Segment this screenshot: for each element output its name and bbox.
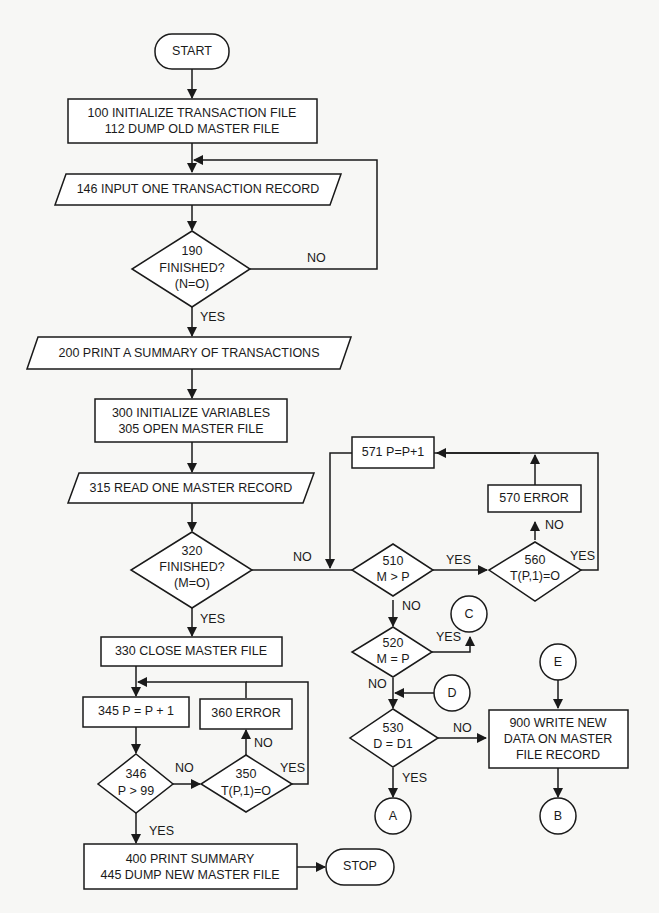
decision-320-line-3: (M=O) <box>174 576 210 590</box>
process-900-line-1: 900 WRITE NEW <box>509 716 606 730</box>
process-300-line-1: 300 INITIALIZE VARIABLES <box>112 406 270 420</box>
connector-c-label: C <box>464 607 473 621</box>
decision-530-line-1: 530 <box>383 721 404 735</box>
process-300-line-2: 305 OPEN MASTER FILE <box>118 422 263 436</box>
process-900-write-master: 900 WRITE NEW DATA ON MASTER FILE RECORD <box>489 710 628 768</box>
decision-520-m-eq-p: 520 M = P <box>352 627 432 677</box>
io-315-label: 315 READ ONE MASTER RECORD <box>90 481 293 495</box>
process-571-increment: 571 P=P+1 <box>352 437 434 468</box>
decision-190-finished: 190 FINISHED? (N=O) <box>132 231 250 307</box>
connector-e-label: E <box>554 655 562 669</box>
process-300-initialize-variables: 300 INITIALIZE VARIABLES 305 OPEN MASTER… <box>95 399 287 442</box>
label-320-no: NO <box>293 550 312 564</box>
decision-320-line-2: FINISHED? <box>159 560 224 574</box>
flowchart-canvas: START 100 INITIALIZE TRANSACTION FILE 11… <box>0 0 659 913</box>
connector-c: C <box>451 596 487 632</box>
connector-b: B <box>540 798 576 834</box>
connector-e: E <box>540 644 576 680</box>
connector-a-label: A <box>389 809 398 823</box>
io-200-label: 200 PRINT A SUMMARY OF TRANSACTIONS <box>59 346 320 360</box>
process-400-line-2: 445 DUMP NEW MASTER FILE <box>101 868 280 882</box>
decision-520-line-2: M = P <box>377 652 410 666</box>
io-200-print-summary: 200 PRINT A SUMMARY OF TRANSACTIONS <box>27 337 351 369</box>
process-100-initialize: 100 INITIALIZE TRANSACTION FILE 112 DUMP… <box>68 99 317 143</box>
label-510-yes: YES <box>446 553 471 567</box>
process-330-close-master: 330 CLOSE MASTER FILE <box>101 637 282 666</box>
start-terminator: START <box>155 34 229 69</box>
process-570-error: 570 ERROR <box>488 485 581 512</box>
label-520-no: NO <box>368 677 387 691</box>
process-360-error: 360 ERROR <box>200 699 292 729</box>
decision-510-line-2: M > P <box>377 570 410 584</box>
io-315-read-master: 315 READ ONE MASTER RECORD <box>68 473 314 503</box>
label-510-no: NO <box>402 599 421 613</box>
label-320-yes: YES <box>200 612 225 626</box>
decision-190-line-3: (N=O) <box>175 277 209 291</box>
process-570-label: 570 ERROR <box>499 491 568 505</box>
stop-terminator: STOP <box>326 849 394 885</box>
process-100-line-2: 112 DUMP OLD MASTER FILE <box>105 122 280 136</box>
label-350-yes: YES <box>280 761 305 775</box>
decision-190-line-2: FINISHED? <box>159 261 224 275</box>
connector-d-label: D <box>447 686 456 700</box>
decision-530-line-2: D = D1 <box>373 737 412 751</box>
decision-530-d-eq-d1: 530 D = D1 <box>350 709 438 767</box>
decision-320-line-1: 320 <box>182 544 203 558</box>
label-346-no: NO <box>175 761 194 775</box>
decision-560-test: 560 T(P,1)=O <box>489 542 581 601</box>
decision-346-p-gt-99: 346 P > 99 <box>98 754 173 813</box>
decision-346-line-1: 346 <box>126 767 147 781</box>
process-360-label: 360 ERROR <box>211 706 280 720</box>
connector-a: A <box>375 798 411 834</box>
process-345-label: 345 P = P + 1 <box>98 704 174 718</box>
label-520-yes: YES <box>436 630 461 644</box>
process-400-line-1: 400 PRINT SUMMARY <box>126 852 255 866</box>
decision-190-line-1: 190 <box>182 244 203 258</box>
label-190-no: NO <box>307 251 326 265</box>
process-330-label: 330 CLOSE MASTER FILE <box>115 644 267 658</box>
label-560-yes: YES <box>570 549 595 563</box>
decision-520-line-1: 520 <box>383 636 404 650</box>
process-345-increment: 345 P = P + 1 <box>83 697 189 727</box>
start-label: START <box>172 44 212 58</box>
decision-350-test: 350 T(P,1)=O <box>201 755 292 812</box>
io-146-label: 146 INPUT ONE TRANSACTION RECORD <box>77 182 320 196</box>
decision-510-m-gt-p: 510 M > P <box>352 544 433 596</box>
process-900-line-2: DATA ON MASTER <box>504 732 613 746</box>
label-530-no: NO <box>453 721 472 735</box>
process-400-print-summary: 400 PRINT SUMMARY 445 DUMP NEW MASTER FI… <box>84 844 297 889</box>
decision-350-line-2: T(P,1)=O <box>221 784 271 798</box>
io-146-input-transaction: 146 INPUT ONE TRANSACTION RECORD <box>55 174 341 205</box>
label-560-no: NO <box>545 518 564 532</box>
connector-d: D <box>434 675 470 711</box>
label-346-yes: YES <box>149 824 174 838</box>
label-530-yes: YES <box>402 771 427 785</box>
decision-346-line-2: P > 99 <box>118 784 154 798</box>
process-571-label: 571 P=P+1 <box>362 445 425 459</box>
decision-560-line-1: 560 <box>525 553 546 567</box>
process-900-line-3: FILE RECORD <box>516 748 600 762</box>
decision-560-line-2: T(P,1)=O <box>510 569 560 583</box>
decision-320-finished: 320 FINISHED? (M=O) <box>131 532 252 608</box>
decision-350-line-1: 350 <box>236 767 257 781</box>
label-190-yes: YES <box>200 310 225 324</box>
stop-label: STOP <box>343 859 377 873</box>
decision-510-line-1: 510 <box>383 554 404 568</box>
connector-b-label: B <box>554 809 562 823</box>
process-100-line-1: 100 INITIALIZE TRANSACTION FILE <box>88 106 297 120</box>
label-350-no: NO <box>254 736 273 750</box>
